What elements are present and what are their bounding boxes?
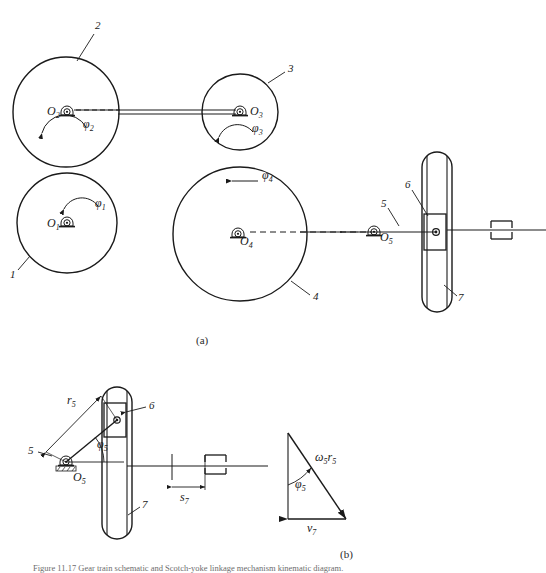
label-angle-phi5-b: φ5 [97,437,108,453]
label-displacement-s7: s7 [180,490,189,506]
label-link-7-b: 7 [142,498,148,510]
block-6-pin-dot [435,231,438,234]
panel-a-diagram [13,34,546,312]
label-angle-phi4: φ4 [262,168,273,184]
label-angle-phi1: φ1 [95,196,106,212]
figure-caption: Figure 11.17 Gear train schematic and Sc… [33,563,343,573]
label-link-1: 1 [10,268,16,280]
label-link-4: 4 [313,290,319,302]
rotation-arrow-phi3 [219,125,253,137]
velocity-triangle [288,433,346,519]
leader-link-7 [444,285,457,296]
leader-link-1 [18,256,30,270]
label-velocity-omega5-r5: ω5r5 [315,450,336,466]
label-pivot-o4: O4 [240,234,253,250]
label-angle-phi2: φ2 [83,117,94,133]
vector-omega5-r5 [288,433,346,519]
leader-link-5 [388,208,399,226]
leader-link-2 [77,34,94,61]
pivot-o2-symbol [59,106,75,116]
pivot-o1-symbol [59,217,75,227]
panel-b-diagram [38,387,346,539]
label-pivot-o3: O3 [250,104,263,120]
leader-link-3 [268,72,285,83]
rotation-arrow-phi1 [64,198,98,209]
label-pivot-o5-b: O5 [73,470,86,486]
label-pivot-o1: O1 [47,216,60,232]
panel-a-label: (a) [196,334,208,346]
label-link-7-a: 7 [458,291,464,303]
leader-link-4 [291,281,310,295]
label-link-5-b: 5 [28,444,34,456]
prismatic-joint-b [205,455,226,490]
label-link-3: 3 [288,62,294,74]
label-link-5-a: 5 [381,197,387,209]
label-pivot-o5-a: O5 [380,230,393,246]
leader-link-6 [412,190,428,216]
link-5-rod-b [66,420,117,462]
label-radius-r5: r5 [67,393,76,409]
label-pivot-o2: O2 [47,104,60,120]
label-angle-phi3: φ3 [252,121,263,137]
pivot-o3-symbol [232,106,248,116]
label-angle-phi5-triangle: φ5 [295,477,306,493]
leader-link-6-b [126,407,146,412]
label-velocity-v7: v7 [307,521,316,537]
label-link-6-b: 6 [149,399,155,411]
panel-b-label: (b) [340,548,353,560]
label-link-2: 2 [95,19,101,31]
leader-link-7-b [128,507,140,515]
label-link-6-a: 6 [405,178,411,190]
